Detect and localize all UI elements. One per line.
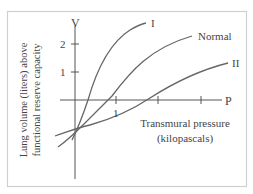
x-tick-label-1: 1 bbox=[113, 107, 119, 119]
y-axis-title-line1: Lung volume (liters) above bbox=[18, 42, 30, 157]
curve-label-I: I bbox=[151, 17, 155, 29]
y-tick-label-1: 1 bbox=[60, 66, 66, 78]
y-axis-symbol: V bbox=[71, 16, 80, 30]
curve-label-normal: Normal bbox=[198, 30, 232, 42]
x-axis-title-line1: Transmural pressure bbox=[140, 117, 230, 129]
curve-label-II: II bbox=[232, 57, 240, 69]
x-axis-symbol: P bbox=[225, 94, 232, 108]
y-tick-label-2: 2 bbox=[60, 38, 66, 50]
lung-compliance-diagram: V P 2 1 1 I Normal II Transmural pressur… bbox=[0, 0, 253, 194]
x-axis-title-line2: (kilopascals) bbox=[157, 132, 214, 145]
y-axis-title-line2: functional reserve capacity bbox=[31, 43, 42, 157]
